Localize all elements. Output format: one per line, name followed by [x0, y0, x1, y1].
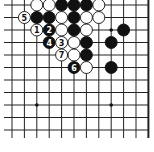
white-stone	[80, 62, 92, 74]
white-stone	[80, 24, 92, 36]
black-stone	[43, 12, 55, 24]
black-stone-move-4: 4	[43, 37, 55, 49]
star-point-icon	[109, 103, 113, 107]
black-stone	[105, 37, 117, 49]
white-stone-move-1: 1	[31, 24, 43, 36]
white-stone-move-3: 3	[56, 37, 68, 49]
move-number: 5	[22, 14, 28, 23]
white-stone-move-7: 7	[56, 49, 68, 61]
black-stone	[80, 37, 92, 49]
white-stone	[56, 24, 68, 36]
move-number: 4	[46, 39, 52, 48]
move-number: 7	[59, 51, 65, 60]
black-stone	[56, 0, 68, 11]
white-stone	[43, 0, 55, 11]
black-stone	[80, 0, 92, 11]
star-point-icon	[35, 103, 39, 107]
move-number: 1	[34, 26, 40, 35]
black-stone	[31, 12, 43, 24]
star-point-icon	[109, 28, 113, 32]
white-stone	[93, 12, 105, 24]
black-stone	[80, 49, 92, 61]
white-stone	[80, 12, 92, 24]
black-stone	[118, 24, 130, 36]
move-number: 2	[46, 26, 52, 35]
stones-layer: 5124376	[18, 0, 129, 74]
black-stone-move-6: 6	[68, 62, 80, 74]
black-stone	[68, 24, 80, 36]
white-stone	[31, 0, 43, 11]
black-stone	[105, 62, 117, 74]
white-stone	[56, 12, 68, 24]
white-stone-move-5: 5	[18, 12, 30, 24]
white-stone	[68, 37, 80, 49]
black-stone	[68, 12, 80, 24]
black-stone	[68, 0, 80, 11]
move-number: 3	[59, 39, 65, 48]
go-board[interactable]: 5124376	[0, 0, 154, 152]
move-number: 6	[71, 64, 77, 73]
white-stone	[93, 0, 105, 11]
black-stone-move-2: 2	[43, 24, 55, 36]
white-stone	[68, 49, 80, 61]
